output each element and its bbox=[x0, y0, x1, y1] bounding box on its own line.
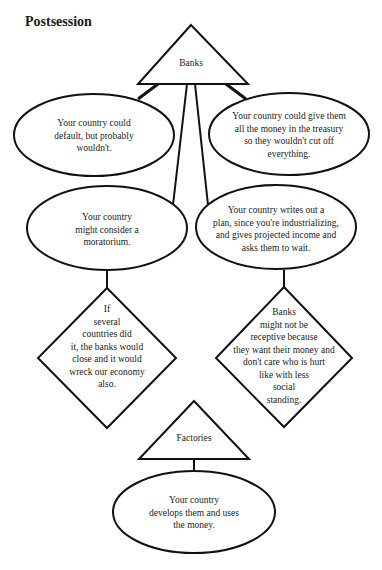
banks-label: Banks bbox=[151, 57, 231, 70]
page-title: Postsession bbox=[25, 14, 92, 30]
edge-banks-plan bbox=[195, 84, 208, 205]
factories-triangle bbox=[139, 401, 249, 459]
edge-banks-moratorium bbox=[173, 84, 187, 205]
edge-banks-give-money bbox=[226, 84, 246, 99]
develops-label: Your country develops them and uses the … bbox=[124, 494, 264, 532]
plan-label: Your country writes out a plan, since yo… bbox=[196, 204, 356, 254]
edge-banks-default bbox=[138, 84, 158, 99]
several-countries-label: If several countries did it, the banks w… bbox=[57, 303, 157, 391]
default-label: Your country could default, but probably… bbox=[24, 117, 164, 155]
moratorium-label: Your country might consider a moratorium… bbox=[37, 211, 177, 249]
diagram-canvas bbox=[0, 0, 382, 570]
banks-triangle bbox=[138, 25, 248, 84]
factories-label: Factories bbox=[154, 432, 234, 445]
not-receptive-label: Banks might not be receptive because the… bbox=[224, 306, 344, 406]
give-money-label: Your country could give them all the mon… bbox=[214, 110, 364, 160]
